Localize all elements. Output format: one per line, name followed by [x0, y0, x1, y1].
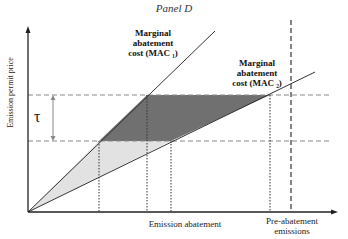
tau-arrow-head-down — [51, 136, 56, 141]
x-axis-arrow-icon — [331, 210, 338, 215]
mac2-line — [28, 72, 315, 212]
mac2-label-line: abatement — [222, 68, 292, 78]
pre-abatement-label: Pre-abatement emissions — [262, 216, 322, 236]
mac2-label-line: Marginal — [222, 58, 292, 68]
mac2-label-line: cost (MAC ₂) — [222, 78, 292, 88]
mac1-label-line: cost (MAC ₁) — [118, 48, 188, 58]
y-axis-arrow-icon — [26, 26, 31, 33]
mac1-label-line: abatement — [118, 38, 188, 48]
mac1-label: Marginal abatement cost (MAC ₁) — [118, 28, 188, 58]
pre-abatement-label-line: emissions — [262, 226, 322, 236]
x-axis-label: Emission abatement — [140, 219, 230, 229]
y-axis-label: Emission permit price — [6, 43, 15, 143]
tau-arrow-head-up — [51, 95, 56, 100]
pre-abatement-label-line: Pre-abatement — [262, 216, 322, 226]
tau-label: τ — [34, 108, 40, 126]
mac1-label-line: Marginal — [118, 28, 188, 38]
mac2-label: Marginal abatement cost (MAC ₂) — [222, 58, 292, 88]
